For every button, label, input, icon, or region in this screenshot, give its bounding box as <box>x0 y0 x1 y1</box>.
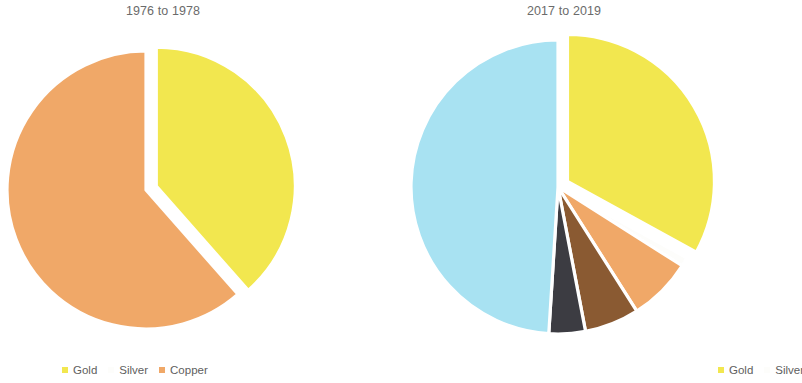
pie-chart-2 <box>402 0 802 383</box>
legend-swatch-icon <box>108 367 114 373</box>
legend-label: Silver <box>119 363 148 377</box>
legend-swatch-icon <box>764 367 770 373</box>
pie-chart-1 <box>0 0 402 383</box>
pie-slice[interactable] <box>411 40 558 334</box>
legend-item[interactable]: Silver/alluvial gold <box>764 363 802 377</box>
legend-swatch-icon <box>718 367 724 373</box>
legend-label: Gold <box>73 363 97 377</box>
legend-1: GoldSilverCopper <box>62 363 219 377</box>
pie-chart-panel-1976-1978: 1976 to 1978 GoldSilverCopper <box>0 0 402 383</box>
pie-chart-panel-2017-2019: 2017 to 2019 GoldSilver/alluvial goldCop… <box>402 0 802 383</box>
pie-svg-1 <box>0 0 402 383</box>
legend-2: GoldSilver/alluvial goldCopperNickel and… <box>718 363 802 377</box>
legend-swatch-icon <box>159 367 165 373</box>
legend-item[interactable]: Copper <box>159 363 208 377</box>
legend-label: Copper <box>170 363 208 377</box>
legend-label: Gold <box>729 363 753 377</box>
legend-swatch-icon <box>62 367 68 373</box>
pie-svg-2 <box>402 0 802 383</box>
legend-item[interactable]: Silver <box>108 363 148 377</box>
legend-item[interactable]: Gold <box>62 363 97 377</box>
legend-item[interactable]: Gold <box>718 363 753 377</box>
legend-label: Silver/alluvial gold <box>775 363 802 377</box>
